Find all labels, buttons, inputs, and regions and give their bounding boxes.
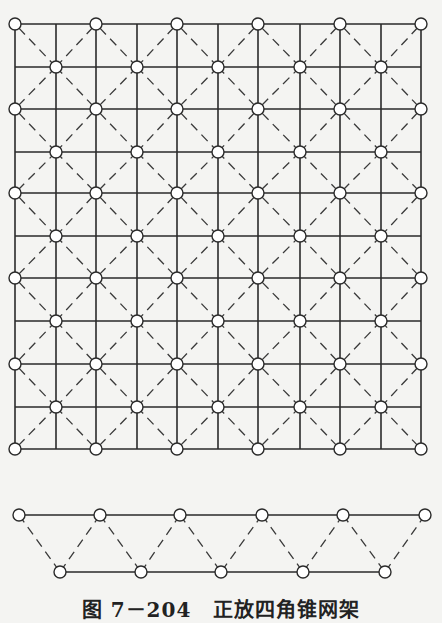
caption-number: 图 7－204 [82,598,192,622]
web-member [15,152,56,193]
upper-node [9,272,21,284]
web-member [96,407,137,449]
upper-node [334,272,346,284]
web-member [15,321,56,364]
web-member [340,321,381,364]
web-member [385,515,425,572]
web-member [177,109,218,152]
web-member [56,152,96,193]
web-member [15,407,56,449]
web-member [137,321,177,364]
web-member [56,67,96,109]
web-member [15,364,56,407]
web-member [300,67,340,109]
upper-node [252,272,264,284]
lower-node [294,146,306,158]
web-member [15,109,56,152]
web-member [96,24,137,67]
web-member [218,364,258,407]
lower-node [375,315,387,327]
web-member [381,67,421,109]
lower-node [294,61,306,73]
upper-node [90,18,102,30]
upper-node [171,358,183,370]
web-member [141,515,180,572]
web-member [300,152,340,193]
web-member [300,364,340,407]
web-member [381,24,421,67]
upper-node [334,18,346,30]
web-member [15,193,56,236]
upper-node [9,443,21,455]
web-member [381,407,421,449]
web-member [303,515,343,572]
web-member [218,24,258,67]
web-member [258,152,300,193]
web-member [340,24,381,67]
web-member [340,193,381,236]
web-member [340,67,381,109]
lower-node [131,230,143,242]
web-member [258,193,300,236]
upper-node [415,18,427,30]
upper-node [171,187,183,199]
lower-node [294,315,306,327]
web-member [96,193,137,236]
web-member [137,193,177,236]
web-member [100,515,141,572]
web-member [137,67,177,109]
web-member [381,364,421,407]
web-member [221,515,262,572]
web-member [177,407,218,449]
upper-node [252,18,264,30]
web-member [137,152,177,193]
lower-node [375,61,387,73]
top-node [256,509,268,521]
lower-node [294,230,306,242]
upper-node [415,272,427,284]
web-member [177,364,218,407]
web-member [180,515,221,572]
bottom-node [54,566,66,578]
web-member [96,236,137,278]
upper-node [171,18,183,30]
web-member [381,236,421,278]
upper-node [252,103,264,115]
lower-node [50,61,62,73]
upper-node [9,187,21,199]
upper-node [171,272,183,284]
lower-node [131,315,143,327]
lower-node [50,401,62,413]
upper-node [334,443,346,455]
web-member [56,236,96,278]
web-member [258,364,300,407]
web-member [340,152,381,193]
upper-node [334,187,346,199]
web-member [300,278,340,321]
web-member [258,236,300,278]
web-member [262,515,303,572]
web-member [381,278,421,321]
upper-node [415,103,427,115]
web-member [300,236,340,278]
web-member [381,193,421,236]
upper-node [334,358,346,370]
upper-node [415,443,427,455]
bottom-node [215,566,227,578]
upper-node [334,103,346,115]
web-member [137,364,177,407]
top-node [419,509,431,521]
web-member [177,278,218,321]
plan-view [9,18,427,455]
lower-node [375,146,387,158]
web-member [56,321,96,364]
web-member [56,407,96,449]
web-member [15,236,56,278]
web-member [15,67,56,109]
bottom-node [135,566,147,578]
web-member [15,278,56,321]
web-member [300,193,340,236]
web-member [381,152,421,193]
web-member [300,24,340,67]
